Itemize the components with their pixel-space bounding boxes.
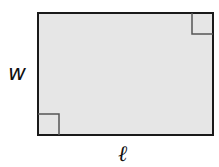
diagram-svg: w ℓ (0, 0, 219, 167)
rectangle-diagram: w ℓ (0, 0, 219, 167)
width-label: w (8, 60, 27, 85)
length-label: ℓ (118, 141, 128, 166)
rectangle-shape (38, 13, 213, 135)
